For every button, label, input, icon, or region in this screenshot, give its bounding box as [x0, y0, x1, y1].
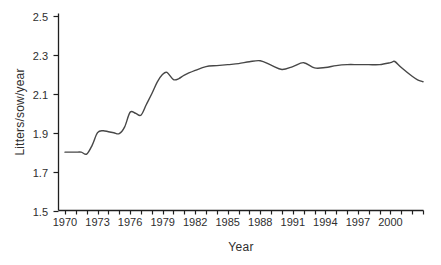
x-axis-tick-label: 2000 [378, 216, 402, 228]
x-axis-tick-label: 1985 [215, 216, 239, 228]
chart-figure: 1.51.71.92.12.32.51970197319761979198219… [0, 0, 441, 265]
x-axis-tick-label: 1988 [248, 216, 272, 228]
x-axis-tick-label: 1991 [281, 216, 305, 228]
data-series-line [65, 61, 423, 155]
x-axis-tick-label: 1997 [346, 216, 370, 228]
x-axis-tick-label: 1994 [313, 216, 337, 228]
y-axis-tick-label: 1.7 [33, 167, 48, 179]
y-axis-tick-label: 2.5 [33, 11, 48, 23]
x-axis-tick-label: 1976 [118, 216, 142, 228]
y-axis-tick-label: 1.5 [33, 206, 48, 218]
x-axis-tick-label: 1973 [85, 216, 109, 228]
y-axis-tick-label: 2.1 [33, 89, 48, 101]
x-axis-tick-label: 1979 [150, 216, 174, 228]
x-axis-tick-label: 1982 [183, 216, 207, 228]
y-axis-tick-label: 2.3 [33, 50, 48, 62]
y-axis-tick-label: 1.9 [33, 128, 48, 140]
x-axis-tick-label: 1970 [53, 216, 77, 228]
plot-svg: 1.51.71.92.12.32.51970197319761979198219… [0, 0, 441, 265]
x-axis-title: Year [228, 240, 253, 254]
y-axis-title: Litters/sow/year [13, 68, 27, 155]
